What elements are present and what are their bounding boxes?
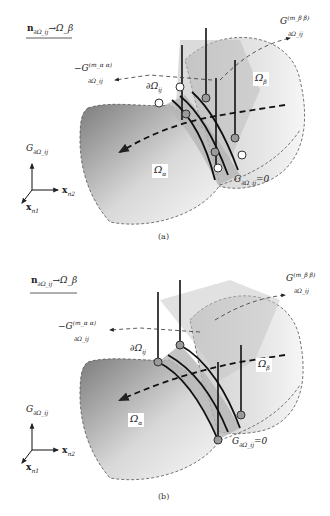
axis-x2-b: xn2	[62, 446, 75, 457]
caption-a: (a)	[158, 232, 169, 241]
normal-legend-a: n∂Ω_ij→Ω_β	[27, 24, 73, 35]
g-beta-label-b: G(m_β β)∂Ω_ij	[286, 272, 315, 294]
diagram-canvas	[0, 0, 330, 516]
axis-x1-a: xn1	[26, 203, 39, 214]
axis-x1-b: xn1	[26, 463, 39, 474]
g-beta-label-a: G(m_β β)∂Ω_ij	[280, 15, 309, 37]
interface-label-b: ∂Ωij	[130, 344, 146, 355]
omega-alpha-label-a: Ωα	[152, 164, 168, 178]
axis-g-a: G∂Ω_ij	[26, 144, 48, 155]
zero-condition-b: G∂Ω_ij=0	[232, 437, 267, 448]
axis-x2-a: xn2	[62, 186, 75, 197]
omega-beta-label-b: Ωβ	[256, 358, 272, 372]
zero-condition-a: G∂Ω_ij=0	[234, 175, 269, 186]
normal-legend-b: n∂Ω_ij→Ω_β	[31, 276, 77, 287]
omega-alpha-label-b: Ωα	[128, 413, 144, 427]
g-alpha-label-a: −G(m_α α)∂Ω_ij	[74, 62, 112, 84]
caption-b: (b)	[158, 492, 169, 501]
axis-g-b: G∂Ω_ij	[26, 405, 48, 416]
g-alpha-label-b: −G(m_α α)∂Ω_ij	[58, 320, 96, 342]
interface-label-a: ∂Ωij	[146, 82, 162, 93]
omega-beta-label-a: Ωβ	[253, 72, 269, 86]
